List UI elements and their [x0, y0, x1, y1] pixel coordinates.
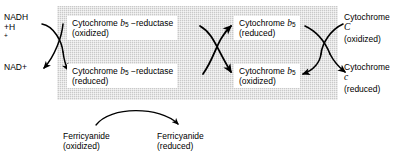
b5-red-subscript: 5 — [292, 21, 296, 28]
b5-ox-state: (oxidized) — [239, 77, 296, 87]
label-ferricyanide-reduced: Ferricyanide (reduced) — [157, 131, 204, 151]
ferricyanide-ox-line2: (oxidized) — [63, 141, 110, 151]
label-cytochrome-c-oxidized: Cytochrome C (oxidized) — [344, 12, 390, 44]
cytc-ox-state: (oxidized) — [344, 34, 390, 44]
label-cytochrome-c-reduced: Cytochrome c (reduced) — [344, 62, 390, 94]
label-nad-plus: NAD+ — [4, 62, 27, 72]
cytc-red-state: (reduced) — [344, 84, 390, 94]
reductase-red-symbol: b5 — [120, 66, 128, 76]
nad-plus-line1: NAD+ — [4, 62, 27, 72]
ferricyanide-red-line2: (reduced) — [157, 141, 204, 151]
reductase-red-state: (reduced) — [72, 77, 173, 87]
cytc-ox-name: Cytochrome C — [344, 12, 390, 34]
reductase-ox-symbol: b5 — [120, 18, 128, 28]
cytc-ox-symbol: C — [344, 22, 390, 33]
ferricyanide-ox-line1: Ferricyanide — [63, 131, 110, 141]
nadh-charge: + — [4, 32, 28, 40]
ferricyanide-red-line1: Ferricyanide — [157, 131, 204, 141]
reductase-ox-state: (oxidized) — [72, 29, 173, 39]
box-cytochrome-b5-reduced: Cytochrome b5 (reduced) — [234, 16, 300, 40]
cytc-red-symbol: c — [344, 72, 390, 83]
label-ferricyanide-oxidized: Ferricyanide (oxidized) — [63, 131, 110, 151]
nadh-line1: NADH — [4, 12, 28, 22]
b5-red-state: (reduced) — [239, 29, 296, 39]
box-cytochrome-b5-reductase-reduced: Cytochrome b5 −reductase (reduced) — [67, 64, 177, 88]
electron-transport-diagram: NADH +H+ NAD+ Cytochrome b5 −reductase (… — [0, 0, 417, 161]
cytc-red-name: Cytochrome c — [344, 62, 390, 84]
b5-ox-symbol: b5 — [287, 66, 295, 76]
b5-red-symbol: b5 — [287, 18, 295, 28]
arc-ferricyanide — [96, 111, 178, 125]
box-cytochrome-b5-reductase-oxidized: Cytochrome b5 −reductase (oxidized) — [67, 16, 177, 40]
box-cytochrome-b5-oxidized: Cytochrome b5 (oxidized) — [234, 64, 300, 88]
b5-ox-subscript: 5 — [292, 69, 296, 76]
label-nadh: NADH +H+ — [4, 12, 28, 40]
nadh-line2: +H+ — [4, 22, 28, 40]
